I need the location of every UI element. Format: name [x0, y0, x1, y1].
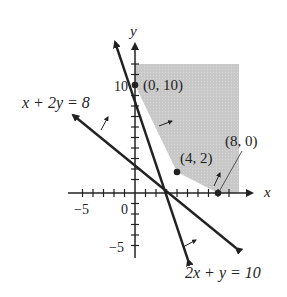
- equation-label-eq2: 2x + y = 10: [185, 264, 261, 282]
- x-axis-label: x: [263, 184, 271, 200]
- y-axis-label: y: [128, 23, 137, 39]
- vertex-4-2: [174, 169, 181, 176]
- vertex-8-0: [215, 190, 222, 197]
- equation-label-eq1: x + 2y = 8: [21, 94, 90, 112]
- direction-arrow-eq2-bottom: [183, 240, 196, 247]
- tick-label-y-10: 10: [114, 79, 128, 94]
- vertex-label-8-0: (8, 0): [225, 133, 258, 150]
- vertex-label-4-2: (4, 2): [180, 150, 213, 167]
- vertex-label-0-10: (0, 10): [143, 77, 183, 94]
- feasible-region-graph: y x 10 −5 0 −5 (0, 10) (4, 2) (8, 0) x +…: [0, 0, 287, 297]
- tick-label-origin: 0: [121, 202, 128, 217]
- tick-label-y-neg5: −5: [109, 240, 124, 255]
- direction-arrow-eq1-left: [101, 117, 108, 130]
- tick-label-x-neg5: −5: [74, 202, 89, 217]
- vertex-0-10: [132, 82, 139, 89]
